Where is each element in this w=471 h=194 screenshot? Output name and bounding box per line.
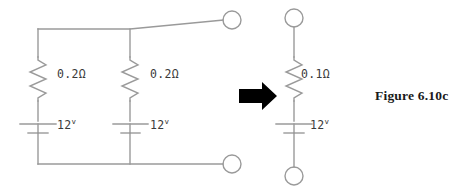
- right-circuit-group: [276, 27, 312, 167]
- voltage-unit: v: [71, 117, 76, 126]
- top-rail-wire: [38, 20, 223, 29]
- right-resistor: [286, 57, 302, 101]
- voltage-label-branch1: 12v: [57, 117, 76, 132]
- resistor-label-branch2: 0.2Ω: [150, 67, 179, 81]
- resistor-label-equivalent: 0.1Ω: [301, 67, 330, 81]
- left-top-terminal-circle: [223, 11, 241, 29]
- figure-caption: Figure 6.10c: [375, 88, 448, 104]
- branch1-resistor: [30, 57, 46, 101]
- left-circuit-group: [20, 20, 223, 164]
- voltage-value: 12: [150, 118, 164, 132]
- voltage-label-branch2: 12v: [150, 117, 169, 132]
- resistor-label-branch1: 0.2Ω: [57, 67, 86, 81]
- voltage-label-equivalent: 12v: [310, 117, 329, 132]
- left-bottom-terminal-circle: [223, 155, 241, 173]
- equivalence-arrow-icon: [239, 82, 277, 110]
- voltage-value: 12: [57, 118, 71, 132]
- right-top-terminal-circle: [285, 9, 303, 27]
- voltage-unit: v: [324, 117, 329, 126]
- voltage-value: 12: [310, 118, 324, 132]
- branch2-resistor: [122, 57, 138, 101]
- right-bottom-terminal-circle: [285, 167, 303, 185]
- voltage-unit: v: [164, 117, 169, 126]
- circuit-figure: 0.2Ω 0.2Ω 0.1Ω 12v 12v 12v Figure 6.10c: [0, 0, 471, 194]
